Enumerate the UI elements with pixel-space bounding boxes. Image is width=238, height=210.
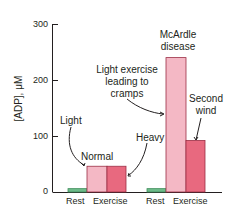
bar-0-1 [87,166,107,192]
annotation-cramps-line3: cramps [95,88,159,99]
arrow-second-wind [196,118,201,140]
annotation-light: Light [60,115,82,126]
x-label-exercise-mcardle: Exercise [173,196,208,207]
bar-1-2 [186,140,205,192]
y-tick-label-200: 200 [24,75,48,85]
x-label-rest-mcardle: Rest [146,196,165,207]
y-tick-label-0: 0 [24,186,48,196]
adp-bar-chart: 300 200 100 0 [ADP], μM Light Normal Hea… [0,0,238,210]
annotation-normal: Normal [81,151,113,162]
y-tick-label-100: 100 [24,131,48,141]
y-tick-label-300: 300 [24,19,48,29]
bar-0-2 [107,166,126,192]
bar-1-1 [166,58,186,192]
arrow-cramps [127,99,163,114]
arrowhead-light [81,163,85,166]
annotation-second-wind-line1: Second [186,93,226,104]
bar-1-0 [147,189,166,192]
annotation-mcardle-line2: disease [155,41,201,52]
annotation-cramps-line2: leading to [95,76,159,87]
x-label-rest-normal: Rest [66,196,85,207]
bar-0-0 [68,189,87,192]
annotation-heavy: Heavy [136,132,164,143]
arrow-heavy [129,143,147,175]
annotation-second-wind-line2: wind [186,105,226,116]
y-axis-label: [ADP], μM [13,82,24,122]
x-label-exercise-normal: Exercise [93,196,128,207]
annotation-cramps-line1: Light exercise [95,64,159,75]
annotation-mcardle-line1: McArdle [155,29,201,40]
